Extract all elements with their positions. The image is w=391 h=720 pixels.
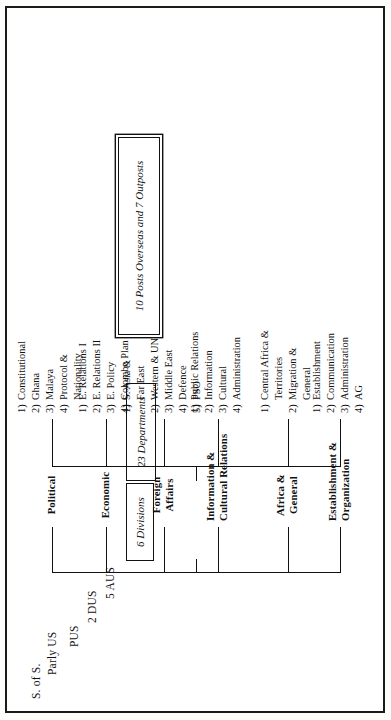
division-connector-6 (52, 527, 53, 573)
department-name: Administration (231, 337, 242, 400)
division-connector-5 (106, 527, 107, 573)
department-number: 3) (104, 400, 118, 413)
department-name: Central Africa & (259, 330, 270, 400)
executive-row-1: S. of S. (30, 664, 44, 699)
department-item: 4)AG (352, 333, 366, 413)
department-number: 4) (352, 400, 366, 413)
department-name: Protocol & (58, 354, 69, 400)
department-name: Migration & (287, 348, 298, 400)
department-number: 3) (43, 400, 57, 413)
department-name: Colombo Plan (119, 340, 130, 400)
division-label-5: Economic (98, 469, 111, 521)
posts-overseas-box: 10 Posts Overseas and 7 Outposts (118, 137, 160, 335)
department-connector-5 (106, 419, 107, 467)
division-label-4: ForeignAffairs (150, 469, 177, 521)
department-item: 2)Communication (324, 333, 338, 413)
department-number: 2) (286, 400, 300, 413)
department-item: 2)Ghana (29, 341, 43, 413)
divisions-feed-line (196, 559, 197, 573)
division-label-line: Establishment & (326, 469, 339, 521)
department-number: 3) (162, 400, 176, 413)
department-list-2: 1)Central Africa &Territories2)Migration… (258, 330, 314, 413)
executive-row-2: Parly US (46, 632, 60, 675)
department-number: 5) (189, 400, 203, 413)
department-number: 4) (230, 400, 244, 413)
department-name: AG (353, 385, 364, 400)
department-name: Western & UN (149, 338, 160, 400)
division-label-6: Political (44, 469, 57, 521)
division-connector-2 (288, 527, 289, 573)
department-number: 4) (57, 400, 71, 413)
department-connector-4 (164, 419, 165, 467)
department-name: Administration (339, 337, 350, 400)
department-number: 2) (324, 400, 338, 413)
department-number: 1) (258, 400, 272, 413)
department-item: 3)E. Policy (104, 340, 118, 413)
department-item: 4)Protocol & (57, 341, 71, 413)
division-label-1: Establishment &Organization (326, 469, 353, 521)
rotated-chart-canvas: S. of S.Parly USPUS2 DUS5 AUS 6 Division… (6, 6, 385, 713)
division-label-line: Political (44, 469, 57, 521)
department-name: Communication (325, 333, 336, 400)
department-item: 3)Malaya (43, 341, 57, 413)
department-name: Cultural (217, 366, 228, 400)
division-label-line: Africa & (274, 469, 287, 521)
department-item: 1)Constitutional (15, 341, 29, 413)
department-number: 2) (148, 400, 162, 413)
department-list-1: 1)Establishment2)Communication3)Administ… (310, 333, 366, 413)
department-item: 4)Administration (230, 332, 244, 413)
department-item: 3)Administration (338, 333, 352, 413)
department-name: Defence (177, 365, 188, 400)
executive-row-3: PUS (68, 625, 82, 647)
department-name-continuation: General (300, 330, 314, 413)
department-list-6: 1)Constitutional2)Ghana3)Malaya4)Protoco… (15, 341, 85, 413)
department-connector-6 (52, 419, 53, 467)
executive-row-4: 2 DUS (86, 590, 100, 623)
department-name: Ghana (30, 373, 41, 400)
department-item: 3)Cultural (216, 332, 230, 413)
department-number: 4) (118, 400, 132, 413)
division-connector-3 (218, 527, 219, 573)
departments-feed-line (196, 467, 197, 481)
division-label-3: Information &Cultural Relations (204, 469, 231, 521)
division-connector-1 (340, 527, 341, 573)
division-label-line: Information & (204, 469, 217, 521)
org-chart: S. of S.Parly USPUS2 DUS5 AUS 6 Division… (6, 6, 385, 713)
department-item: 4)Colombo Plan (118, 340, 132, 413)
department-name-continuation: Far East (134, 338, 148, 413)
division-label-line: General (287, 469, 300, 521)
department-item: 2)Western & UN (148, 338, 162, 413)
department-item: 3)Middle East (162, 338, 176, 413)
department-name: Information (203, 350, 214, 400)
division-label-line: Foreign (150, 469, 163, 521)
department-number: 4) (176, 400, 190, 413)
department-number: 1) (15, 400, 29, 413)
division-label-line: Economic (98, 469, 111, 521)
department-number: 3) (338, 400, 352, 413)
department-connector-2 (288, 419, 289, 467)
department-name: PSO (190, 381, 201, 400)
department-name-continuation: Nationality (71, 341, 85, 413)
scanned-page: S. of S.Parly USPUS2 DUS5 AUS 6 Division… (0, 0, 391, 720)
department-name: Middle East (163, 349, 174, 400)
division-label-line: Cultural Relations (217, 469, 230, 521)
department-item: 2)E. Relations II (90, 340, 104, 413)
department-name-continuation: Territories (272, 330, 286, 413)
department-item: 2)Migration & (286, 330, 300, 413)
page-border: S. of S.Parly USPUS2 DUS5 AUS 6 Division… (5, 6, 385, 713)
department-number: 2) (90, 400, 104, 413)
department-item: 5)PSO (189, 338, 203, 413)
division-label-line: Affairs (163, 469, 176, 521)
department-name: E. Policy (105, 362, 116, 400)
department-name: E. Relations II (91, 340, 102, 400)
department-list-4: 1)S. Asia &Far East2)Western & UN3)Middl… (120, 338, 204, 413)
department-name: Constitutional (16, 341, 27, 400)
department-item: 1)Central Africa & (258, 330, 272, 413)
division-connector-4 (164, 527, 165, 573)
division-label-2: Africa &General (274, 469, 301, 521)
division-label-line: Organization (339, 469, 352, 521)
department-number: 3) (216, 400, 230, 413)
department-item: 4)Defence (176, 338, 190, 413)
department-number: 2) (29, 400, 43, 413)
department-name: Malaya (44, 369, 55, 400)
